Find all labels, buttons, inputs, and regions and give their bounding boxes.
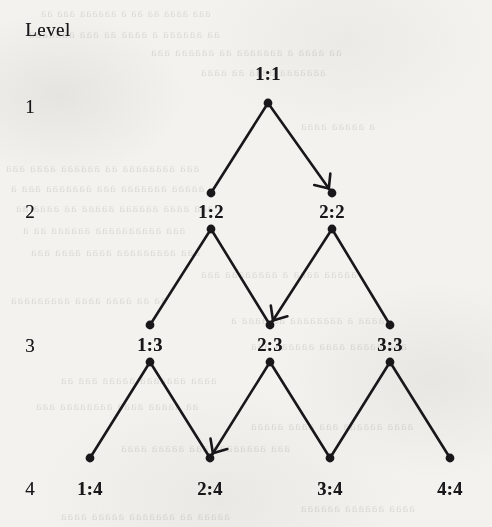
tree-edge-n33-to-n34 (330, 362, 390, 458)
node-dot-3-4 (326, 454, 335, 463)
tree-edge-n13-to-n24 (150, 362, 210, 458)
tree-edge-n23-to-n24 (210, 362, 270, 458)
tree-edge-n11-to-n22 (268, 103, 332, 193)
node-label-3-3: 3:3 (377, 335, 402, 356)
node-label-3-4: 3:4 (317, 479, 342, 500)
arrowhead-barb (329, 174, 331, 189)
node-dot-lower-2-3 (266, 358, 275, 367)
tree-edge-n33-to-n44 (390, 362, 450, 458)
tree-edge-n12-to-n23 (211, 229, 270, 325)
level-number-2: 2 (25, 201, 35, 223)
node-dot-2-3 (266, 321, 275, 330)
node-dot-2-2 (328, 189, 337, 198)
tree-edge-n23-to-n34 (270, 362, 330, 458)
tree-edge-n12-to-n13 (150, 229, 211, 325)
figure-page: aaa aaaa aa aa a aaaaaa aaa aaaa aaaaaa … (0, 0, 492, 527)
arrowhead-barb (271, 306, 273, 321)
level-column-header: Level (25, 19, 70, 41)
node-dot-2-4 (206, 454, 215, 463)
node-label-1-3: 1:3 (137, 335, 162, 356)
node-dot-1-2 (207, 189, 216, 198)
binary-tree-graphic (0, 0, 492, 527)
level-number-4: 4 (25, 478, 35, 500)
node-label-2-2: 2:2 (319, 202, 344, 223)
node-dot-lower-3-3 (386, 358, 395, 367)
node-dot-lower-1-3 (146, 358, 155, 367)
node-label-1-2: 1:2 (198, 202, 223, 223)
node-dot-lower-1-2 (207, 225, 216, 234)
tree-edge-n22-to-n23 (270, 229, 332, 325)
node-dot-4-4 (446, 454, 455, 463)
arrowhead-barb (211, 439, 213, 454)
node-label-1-4: 1:4 (77, 479, 102, 500)
node-dot-1-3 (146, 321, 155, 330)
node-dot-1-4 (86, 454, 95, 463)
node-dot-3-3 (386, 321, 395, 330)
node-label-2-4: 2:4 (197, 479, 222, 500)
tree-edge-n22-to-n33 (332, 229, 390, 325)
level-number-1: 1 (25, 96, 35, 118)
node-label-2-3: 2:3 (257, 335, 282, 356)
tree-edge-n11-to-n12 (211, 103, 268, 193)
node-dot-1-1 (264, 99, 273, 108)
node-label-1-1: 1:1 (255, 64, 280, 85)
node-label-4-4: 4:4 (437, 479, 462, 500)
level-number-3: 3 (25, 335, 35, 357)
node-dot-lower-2-2 (328, 225, 337, 234)
tree-edge-n13-to-n14 (90, 362, 150, 458)
